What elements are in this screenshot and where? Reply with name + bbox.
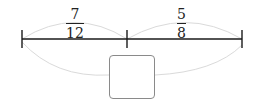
- answer-box[interactable]: [109, 55, 155, 99]
- fraction-right: 5 8: [177, 7, 186, 40]
- fraction-bar: [177, 23, 186, 24]
- bottom-arc-left: [22, 42, 109, 75]
- numerator: 7: [70, 7, 79, 21]
- denominator: 8: [177, 26, 186, 40]
- numerator: 5: [177, 7, 186, 21]
- denominator: 12: [66, 26, 84, 40]
- fraction-bar: [66, 23, 84, 24]
- bottom-arc-right: [155, 45, 242, 75]
- fraction-left: 7 12: [66, 7, 84, 40]
